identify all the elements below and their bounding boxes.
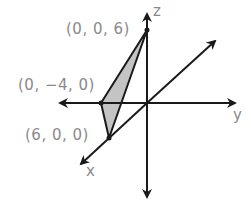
y-axis-label: y bbox=[233, 108, 242, 123]
x-axis-negative bbox=[147, 41, 215, 103]
point-y-intercept bbox=[99, 101, 104, 106]
shaded-triangle bbox=[101, 30, 147, 138]
point-label-z-intercept: (0, 0, 6) bbox=[66, 22, 130, 37]
z-axis-label: z bbox=[153, 4, 161, 19]
point-z-intercept bbox=[145, 28, 150, 33]
point-x-intercept bbox=[107, 136, 112, 141]
point-label-x-intercept: (6, 0, 0) bbox=[25, 128, 89, 143]
x-axis-label: x bbox=[86, 164, 95, 179]
point-label-y-intercept: (0, −4, 0) bbox=[18, 78, 95, 93]
